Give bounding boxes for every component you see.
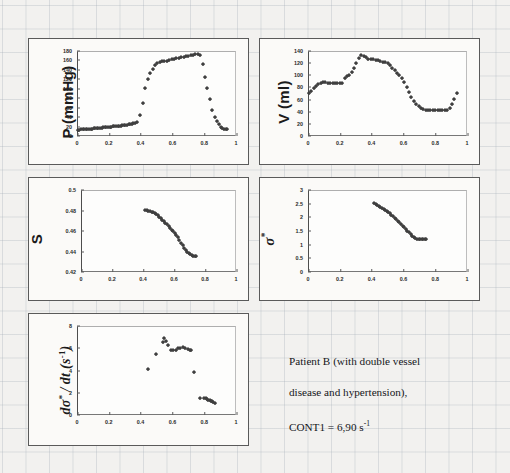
plot-area-pressure: 02040608010012014016018000.20.40.60.81 [77,51,236,136]
y-axis-tick-label: 120 [63,76,77,82]
x-axis-tick-label: 0.6 [400,136,408,146]
y-axis-tick-label: 180 [63,48,77,54]
x-axis-tick-label: 0.6 [169,136,177,146]
y-axis-tick-label: 60 [66,105,77,111]
figure-page: P (mmHg) 02040608010012014016018000.20.4… [0,0,510,473]
x-axis-tick-label: 0.8 [431,272,439,282]
x-axis-tick-label: 0.8 [431,136,439,146]
x-axis-tick-label: 0 [76,415,79,425]
y-axis-tick-label: 100 [294,72,308,78]
x-axis-tick-label: 0.8 [200,136,208,146]
y-axis-label-dsigma-dt: dσ* / dt (s-1) [57,345,75,414]
axes-frame [81,190,236,272]
y-axis-tick-label: 2 [69,390,77,396]
x-axis-tick-label: 0.4 [137,415,145,425]
x-axis-tick-label: 0 [307,136,310,146]
x-axis-tick-label: 0 [307,272,310,282]
caption-line-3: CONT1 = 6,90 s-1 [289,416,485,435]
y-axis-label-volume: V (ml) [275,80,292,123]
y-axis-tick-label: 80 [66,95,77,101]
chart-panel-pressure: P (mmHg) 02040608010012014016018000.20.4… [28,38,249,165]
y-axis-tick-label: 80 [297,84,308,90]
y-axis-tick-label: 140 [63,67,77,73]
y-axis-tick-label: 3 [300,187,308,193]
y-axis-tick-label: 4 [69,368,77,374]
y-axis-tick-label: 1 [300,242,308,248]
y-axis-tick-label: 2 [300,214,308,220]
y-axis-tick-label: 0.48 [66,208,82,214]
y-axis-tick-label: 160 [63,57,77,63]
y-axis-tick-label: 120 [294,60,308,66]
y-axis-tick-label: 0.5 [296,255,309,261]
x-axis-tick-label: 0.2 [336,272,344,282]
plot-area-volume: 02040608010012014000.20.40.60.81 [308,51,467,136]
y-axis-tick-label: 140 [294,48,308,54]
chart-panel-dsigma-dt: dσ* / dt (s-1) 0246800.20.40.60.81 [28,313,249,446]
x-axis-tick-label: 0.2 [108,272,116,282]
x-axis-tick-label: 1 [235,136,238,146]
y-axis-tick-label: 40 [297,109,308,115]
x-axis-tick-label: 0 [80,272,83,282]
y-axis-tick-label: 1.5 [296,228,309,234]
x-axis-tick-label: 0.2 [105,136,113,146]
x-axis-tick-label: 1 [235,272,238,282]
x-axis-tick-label: 0.6 [170,272,178,282]
x-axis-tick-label: 0.2 [105,415,113,425]
y-axis-tick-label: 60 [297,97,308,103]
figure-caption: Patient B (with double vessel disease an… [289,338,485,450]
y-axis-tick-label: 20 [297,121,308,127]
x-axis-tick-label: 0.4 [137,136,145,146]
x-axis-tick-label: 1 [466,136,469,146]
x-axis-tick-label: 0 [76,136,79,146]
y-axis-tick-label: 0.46 [66,228,82,234]
y-axis-label-sigma-star: σ* [260,232,278,245]
caption-line-1: Patient B (with double vessel [289,354,485,370]
x-axis-tick-label: 0.2 [336,136,344,146]
x-axis-tick-label: 0.4 [368,136,376,146]
y-axis-tick-label: 0.5 [69,187,82,193]
x-axis-tick-label: 0.6 [400,272,408,282]
x-axis-tick-label: 0.4 [139,272,147,282]
chart-panel-volume: V (ml) 02040608010012014000.20.40.60.81 [259,38,480,165]
caption-cont1-exponent: -1 [364,419,370,428]
y-axis-tick-label: 8 [69,323,77,329]
axes-frame [308,190,467,272]
x-axis-tick-label: 0.6 [169,415,177,425]
plot-area-sigma-star: 00.511.522.5300.20.40.60.81 [308,190,467,272]
y-axis-tick-label: 2.5 [296,201,309,207]
x-axis-tick-label: 0.4 [368,272,376,282]
x-axis-tick-label: 1 [466,272,469,282]
plot-area-dsigma-dt: 0246800.20.40.60.81 [77,326,236,415]
plot-area-stretch: 0.420.440.460.480.500.20.40.60.81 [81,190,236,272]
y-axis-label-stretch: S [28,234,45,244]
y-axis-tick-label: 6 [69,345,77,351]
caption-line-2: disease and hypertension), [289,385,485,401]
caption-cont1-text: CONT1 = 6,90 s [289,420,364,432]
chart-panel-stretch: S 0.420.440.460.480.500.20.40.60.81 [28,177,249,301]
x-axis-tick-label: 0.8 [200,415,208,425]
x-axis-tick-label: 0.8 [201,272,209,282]
y-axis-tick-label: 40 [66,114,77,120]
y-axis-tick-label: 100 [63,86,77,92]
chart-panel-sigma-star: σ* 00.511.522.5300.20.40.60.81 [259,177,480,301]
x-axis-tick-label: 1 [235,415,238,425]
y-axis-tick-label: 0.44 [66,249,82,255]
